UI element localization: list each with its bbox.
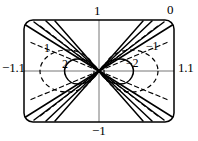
contour-label-inner-left: 2	[62, 58, 68, 70]
phase-plot-figure: 1 0 −1.1 1.1 −1 1 2 −1 −2	[0, 0, 198, 141]
contour-label-inner-right: −2	[126, 57, 138, 69]
axis-label-left: −1.1	[2, 61, 25, 74]
axis-label-bottom: −1	[92, 124, 105, 137]
contour-label-upper-left: 1	[44, 42, 50, 54]
contour-label-upper-right: −1	[146, 40, 158, 52]
axis-label-right: 1.1	[178, 61, 194, 74]
axis-label-top-right-corner: 0	[167, 3, 173, 16]
axis-label-top: 1	[94, 4, 100, 17]
plot-canvas	[0, 0, 198, 141]
